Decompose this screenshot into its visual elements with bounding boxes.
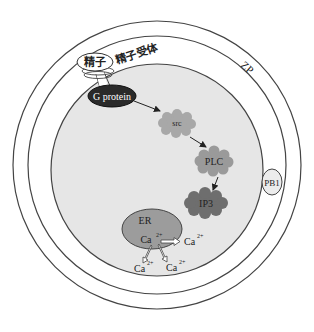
oocyte-signaling-diagram: ZP 精子 精子受体 G protein src PLC [0, 0, 314, 332]
svg-text:2+: 2+ [156, 232, 163, 238]
er-label: ER [139, 215, 152, 226]
ip3-label: IP3 [199, 198, 213, 209]
svg-text:2+: 2+ [179, 259, 186, 265]
polar-body-label: PB1 [264, 178, 280, 188]
svg-text:Ca: Ca [184, 236, 196, 247]
svg-text:Ca: Ca [140, 234, 152, 245]
sperm-receptor-label: 精子受体 [114, 40, 161, 66]
svg-text:2+: 2+ [147, 260, 154, 266]
svg-text:Ca: Ca [134, 263, 146, 274]
src-label: src [172, 119, 182, 128]
zp-label: ZP [239, 59, 257, 77]
plc-label: PLC [205, 156, 224, 167]
g-protein-label: G protein [93, 91, 131, 102]
svg-text:2+: 2+ [197, 233, 204, 239]
svg-text:Ca: Ca [166, 262, 178, 273]
sperm-label: 精子 [84, 55, 106, 68]
